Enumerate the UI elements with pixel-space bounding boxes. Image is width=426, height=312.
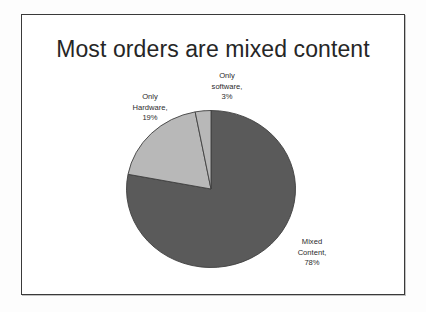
pie-label-only-software-line1: Only <box>182 71 272 82</box>
pie-label-only-software-line3: 3% <box>182 92 272 103</box>
pie-label-mixed-content: Mixed Content, 78% <box>267 237 357 269</box>
pie-label-mixed-content-line3: 78% <box>267 258 357 269</box>
pie-label-mixed-content-line2: Content, <box>267 248 357 259</box>
pie-chart-plot-area: Only software, 3% Only Hardware, 19% Mix… <box>22 15 406 296</box>
pie-label-only-hardware-line1: Only <box>105 92 195 103</box>
page-canvas: Most orders are mixed content Only softw… <box>0 0 426 312</box>
pie-label-only-hardware-line3: 19% <box>105 113 195 124</box>
pie-label-only-software-line2: software, <box>182 82 272 93</box>
slide-frame: Most orders are mixed content Only softw… <box>21 14 405 295</box>
pie-label-only-hardware-line2: Hardware, <box>105 103 195 114</box>
pie-label-only-hardware: Only Hardware, 19% <box>105 92 195 124</box>
pie-label-only-software: Only software, 3% <box>182 71 272 103</box>
pie-label-mixed-content-line1: Mixed <box>267 237 357 248</box>
